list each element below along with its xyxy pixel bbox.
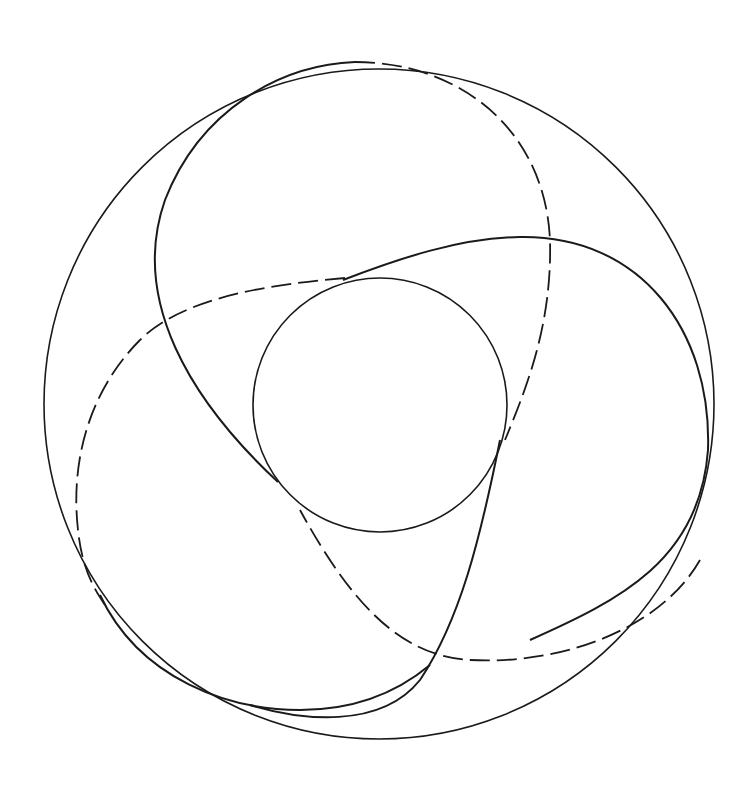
left-loop-dashed	[76, 278, 345, 605]
top-loop-solid	[155, 62, 355, 482]
right-loop-solid-inner	[250, 440, 500, 717]
outer-circle	[44, 69, 714, 739]
top-loop-dashed	[355, 62, 550, 440]
inner-circle	[253, 278, 507, 532]
right-loop-solid	[343, 237, 708, 640]
diagram-figure	[0, 0, 750, 786]
left-loop-solid	[100, 595, 430, 710]
right-loop-dashed	[300, 510, 700, 660]
diagram-canvas	[0, 0, 750, 786]
